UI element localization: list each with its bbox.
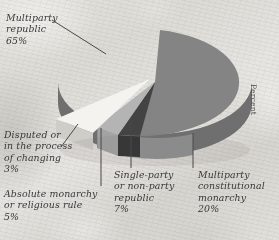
pie-shadow [60, 134, 250, 166]
leader-line-multiparty-republic [52, 20, 106, 54]
label-absolute-monarchy: Absolute monarchy or religious rule 5% [4, 188, 98, 222]
axis-label-percent: Percent [249, 84, 258, 115]
label-mp-const-monarchy: Multiparty constitutional monarchy 20% [198, 169, 265, 215]
label-multiparty-republic: Multiparty republic 65% [6, 12, 58, 46]
label-disputed: Disputed or in the process of changing 3… [4, 129, 72, 175]
label-single-party: Single-party or non-party republic 7% [114, 169, 174, 215]
